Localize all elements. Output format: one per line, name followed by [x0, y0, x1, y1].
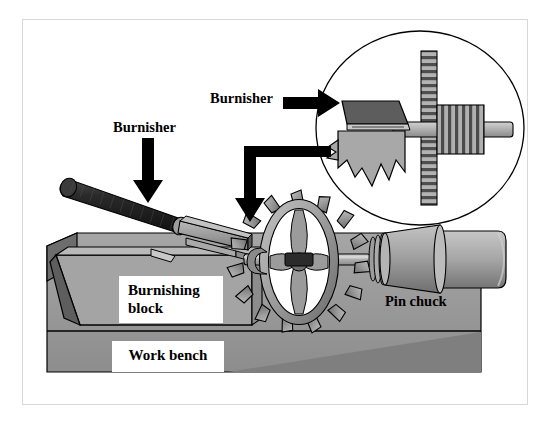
- burnisher-handle: [58, 176, 185, 233]
- pin-chuck: [369, 225, 506, 293]
- technical-illustration: [0, 0, 550, 422]
- figure-canvas: Burnisher Burnisher Pin chuck Burnishing…: [0, 0, 550, 422]
- label-burnisher-left: Burnisher: [113, 119, 176, 136]
- label-burnishing-block: Burnishing block: [119, 276, 223, 323]
- label-work-bench: Work bench: [112, 341, 224, 372]
- label-burnisher-top: Burnisher: [210, 90, 273, 107]
- label-burnishing-block-line1: Burnishing: [128, 282, 223, 300]
- label-pin-chuck: Pin chuck: [385, 293, 447, 310]
- detail-pinion: [437, 105, 484, 154]
- arrow-burnisher-left: [133, 138, 163, 203]
- label-burnishing-block-line2: block: [128, 300, 223, 318]
- detail-circle: [316, 31, 524, 225]
